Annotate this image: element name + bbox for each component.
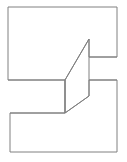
figure-canvas (0, 0, 127, 162)
block-diagram-svg (0, 0, 127, 162)
